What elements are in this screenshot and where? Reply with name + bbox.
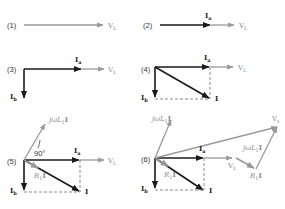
- panel-6: (6) jωL1I Vs Ia jωL1I VL R1I R1I Ib I: [141, 114, 280, 195]
- vl-label: VL: [107, 66, 117, 75]
- ib-label: Ib: [10, 92, 17, 102]
- panel-5: (5) 90° jωL1I Ia VL R1I Ib I: [7, 115, 117, 196]
- r1i-vector: [155, 158, 168, 166]
- panel-5-label: (5): [7, 157, 17, 166]
- ib-label: Ib: [10, 186, 17, 196]
- r1i-vector-tip: [236, 158, 254, 168]
- angle-arc: [38, 140, 40, 148]
- panel-3-label: (3): [7, 65, 17, 74]
- ia-label: Ia: [204, 53, 211, 63]
- vs-label: Vs: [271, 115, 280, 124]
- jwl1i-label-tip: jωL1I: [241, 143, 262, 153]
- r1i-label-tip: R1I: [249, 171, 262, 181]
- i-vector: [155, 67, 209, 98]
- jwl1i-label: jωL1I: [150, 114, 171, 124]
- r1i-label: R1I: [163, 170, 176, 180]
- panel-6-label: (6): [141, 155, 151, 164]
- vl-label: VL: [237, 64, 247, 73]
- ia-label: Ia: [74, 146, 81, 156]
- i-label: I: [85, 187, 88, 196]
- panel-2-label: (2): [143, 21, 153, 30]
- vl-label: VL: [238, 22, 248, 31]
- vl-label: VL: [107, 157, 117, 166]
- vl-label: VL: [227, 162, 237, 171]
- r1i-label: R1I: [33, 171, 46, 181]
- i-label: I: [209, 186, 212, 195]
- i-label: I: [215, 94, 218, 103]
- ia-label: Ia: [75, 55, 82, 65]
- panel-3: (3) Ia VL Ib: [7, 55, 117, 102]
- angle-label: 90°: [34, 149, 45, 158]
- ia-label: Ia: [205, 11, 212, 21]
- panel-4-label: (4): [141, 65, 151, 74]
- vl-label: VL: [107, 22, 117, 31]
- ib-label: Ib: [141, 184, 148, 194]
- panel-1-label: (1): [7, 21, 17, 30]
- phasor-diagram-canvas: (1) VL (2) Ia VL (3) Ia VL Ib (4) Ia VL …: [0, 0, 285, 209]
- panel-2: (2) Ia VL: [143, 11, 248, 31]
- panel-1: (1) VL: [7, 21, 117, 31]
- ib-label: Ib: [141, 93, 148, 103]
- phasor-diagram: (1) VL (2) Ia VL (3) Ia VL Ib (4) Ia VL …: [0, 0, 285, 209]
- jwl1i-vector: [155, 120, 171, 158]
- r1i-vector: [24, 160, 38, 168]
- panel-4: (4) Ia VL Ib I: [141, 53, 247, 103]
- jwl1i-label: jωL1I: [47, 115, 68, 125]
